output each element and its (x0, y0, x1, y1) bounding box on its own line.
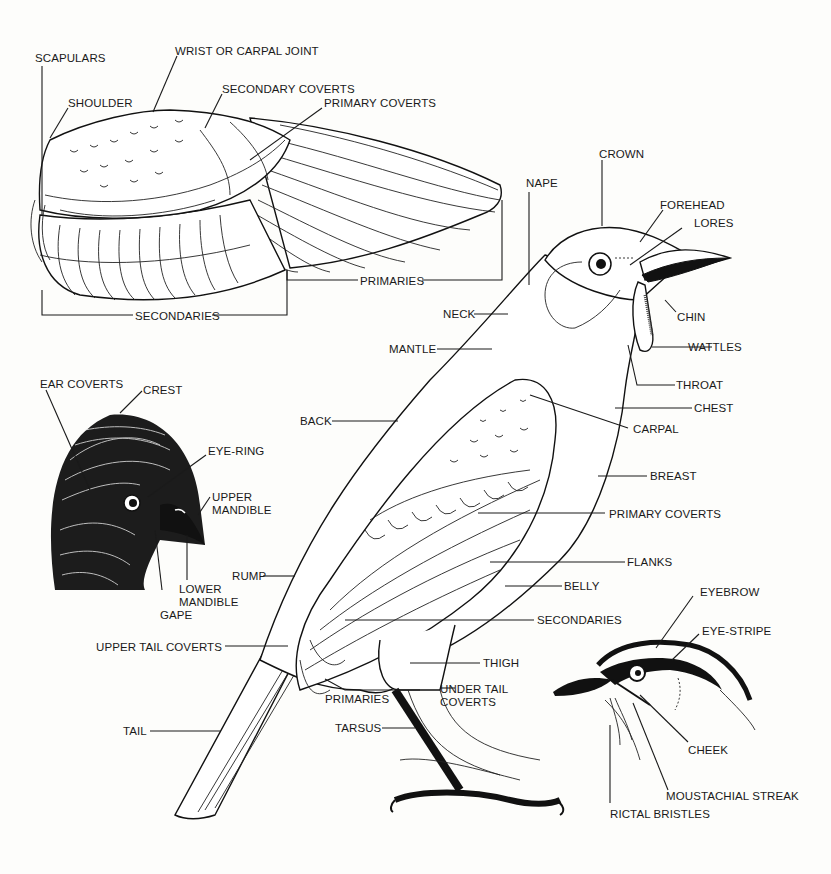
label-thigh: THIGH (483, 657, 519, 669)
label-eye-stripe: EYE-STRIPE (702, 625, 772, 637)
label-lores: LORES (694, 217, 734, 229)
label-upper-tail-coverts: UPPER TAIL COVERTS (96, 641, 222, 653)
label-secondaries-wing: SECONDARIES (135, 310, 220, 322)
label-back: BACK (300, 415, 332, 427)
label-primaries-body: PRIMARIES (325, 693, 389, 705)
label-breast: BREAST (650, 470, 697, 482)
label-chin: CHIN (677, 311, 706, 323)
label-lower-mandible-line1: LOWER (179, 583, 222, 595)
striped-head-leader-lines (610, 596, 699, 803)
label-nape: NAPE (526, 177, 558, 189)
label-chest: CHEST (694, 402, 733, 414)
label-wrist: WRIST OR CARPAL JOINT (175, 45, 319, 57)
label-eye-ring: EYE-RING (208, 445, 264, 457)
crested-head-illustration (51, 415, 205, 590)
label-throat: THROAT (676, 379, 723, 391)
label-shoulder: SHOULDER (68, 97, 133, 109)
label-under-tail-coverts-line2: COVERTS (440, 696, 496, 708)
label-rictal-bristles: RICTAL BRISTLES (610, 808, 710, 820)
label-ear-coverts: EAR COVERTS (40, 378, 124, 390)
label-forehead: FOREHEAD (660, 199, 725, 211)
label-crest: CREST (143, 384, 182, 396)
label-gape: GAPE (160, 609, 193, 621)
label-secondary-coverts: SECONDARY COVERTS (222, 83, 355, 95)
striped-head-labels: EYEBROW EYE-STRIPE CHEEK MOUSTACHIAL STR… (610, 586, 799, 820)
label-upper-mandible-line2: MANDIBLE (212, 504, 272, 516)
label-flanks: FLANKS (627, 556, 673, 568)
label-moustachial-streak: MOUSTACHIAL STREAK (666, 790, 799, 802)
label-primary-coverts-wing: PRIMARY COVERTS (324, 97, 436, 109)
label-under-tail-coverts-line1: UNDER TAIL (440, 683, 509, 695)
label-wattles: WATTLES (688, 341, 742, 353)
label-crown: CROWN (599, 148, 644, 160)
label-lower-mandible-line2: MANDIBLE (179, 596, 239, 608)
label-tarsus: TARSUS (335, 722, 382, 734)
label-rump: RUMP (232, 570, 266, 582)
label-belly: BELLY (564, 580, 600, 592)
label-tail: TAIL (123, 725, 147, 737)
label-upper-mandible-line1: UPPER (212, 491, 252, 503)
label-cheek: CHEEK (688, 744, 728, 756)
label-mantle: MANTLE (389, 343, 436, 355)
label-neck: NECK (443, 308, 476, 320)
label-secondaries-body: SECONDARIES (537, 614, 622, 626)
striped-head-illustration (553, 642, 755, 760)
label-carpal: CARPAL (633, 423, 679, 435)
label-scapulars: SCAPULARS (35, 52, 106, 64)
label-primaries-wing: PRIMARIES (360, 275, 424, 287)
label-primary-coverts-body: PRIMARY COVERTS (609, 508, 721, 520)
bird-topography-diagram: SCAPULARS WRIST OR CARPAL JOINT SHOULDER… (0, 0, 831, 874)
label-eyebrow: EYEBROW (700, 586, 760, 598)
wing-illustration (31, 110, 501, 300)
